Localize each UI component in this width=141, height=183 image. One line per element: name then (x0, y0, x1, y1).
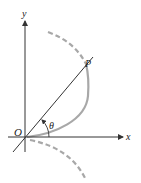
dashed-arc-upper (48, 32, 86, 64)
point-p-label: P (84, 58, 91, 69)
diagram-svg: y x O P θ (0, 0, 141, 183)
x-axis-label: x (125, 131, 131, 142)
solid-curve (27, 64, 88, 137)
y-axis-label: y (21, 8, 27, 19)
dashed-arc-lower (30, 140, 85, 178)
origin-label: O (14, 126, 22, 138)
theta-label: θ (49, 120, 54, 131)
polar-curve-diagram: y x O P θ (0, 0, 141, 183)
